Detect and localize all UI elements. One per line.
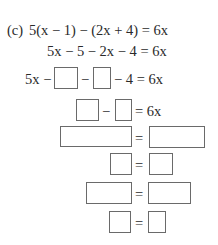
step-3-blank-1[interactable] (76, 99, 99, 121)
step-6-right-blank[interactable] (148, 182, 191, 204)
step-1-equation: 5x − 5 − 2x − 4 = 6x (47, 43, 167, 59)
step-6-left-blank[interactable] (86, 182, 132, 204)
original-equation: 5(x − 1) − (2x + 4) = 6x (29, 22, 168, 38)
step-5-left-blank[interactable] (110, 153, 132, 175)
step-2-blank-2[interactable] (93, 67, 111, 89)
step-6-equals: = (135, 186, 143, 202)
step-2-suffix: − 4 = 6x (114, 71, 163, 87)
step-2-blank-1[interactable] (54, 67, 78, 89)
step-4-right-blank[interactable] (149, 126, 205, 148)
problem-label: (c) (7, 22, 23, 38)
step-3-minus: − (102, 103, 110, 119)
step-7-right-blank[interactable] (148, 211, 166, 233)
step-7-left-blank[interactable] (109, 211, 131, 233)
step-2-minus: − (81, 71, 89, 87)
step-7-equals: = (135, 215, 143, 231)
step-4-left-blank[interactable] (60, 126, 132, 147)
step-3-suffix: = 6x (135, 103, 161, 119)
step-5-equals: = (135, 157, 143, 173)
step-3-blank-2[interactable] (115, 99, 132, 121)
step-2-prefix: 5x − (25, 71, 51, 87)
step-4-equals: = (135, 130, 143, 146)
step-5-right-blank[interactable] (149, 153, 173, 175)
